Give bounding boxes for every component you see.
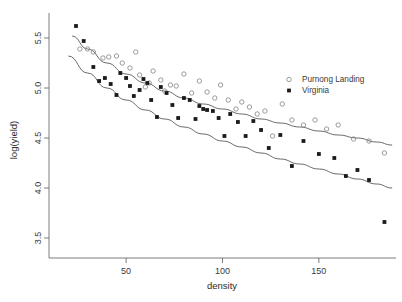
data-point [194, 117, 198, 121]
data-point [278, 133, 282, 137]
data-point [247, 105, 251, 109]
data-point [263, 109, 267, 113]
data-point [218, 83, 222, 87]
data-point [174, 84, 178, 88]
data-point [383, 220, 387, 224]
legend-marker [287, 77, 291, 81]
data-point [120, 61, 124, 65]
y-tick-label: 3.5 [33, 232, 43, 245]
y-tick-label: 4.0 [33, 182, 43, 195]
data-points [74, 24, 387, 224]
data-point [107, 55, 111, 59]
data-point [155, 115, 159, 119]
data-point [324, 127, 328, 131]
data-point [290, 118, 294, 122]
data-point [124, 76, 128, 80]
y-tick-label: 5.0 [33, 82, 43, 95]
data-point [313, 118, 317, 122]
data-point [138, 88, 142, 92]
data-point [259, 128, 263, 132]
data-point [168, 83, 172, 87]
data-point [151, 69, 155, 73]
x-axis-title: density [207, 280, 237, 291]
data-point [182, 72, 186, 76]
data-point [134, 50, 138, 54]
data-point [159, 85, 163, 89]
x-axis-ticks: 50100150 [121, 258, 326, 276]
scatter-chart: 3.54.04.55.05.5 50100150 density log(yie… [0, 0, 402, 302]
y-tick-label: 4.5 [33, 132, 43, 145]
data-point [255, 112, 259, 116]
data-point [228, 112, 232, 116]
fit-curve [72, 36, 392, 145]
data-point [244, 134, 248, 138]
data-point [101, 56, 105, 60]
legend-label: Virginia [302, 86, 330, 95]
data-point [197, 104, 201, 108]
x-tick-label: 150 [311, 266, 326, 276]
data-point [223, 134, 227, 138]
data-point [251, 119, 255, 123]
data-point [270, 134, 274, 138]
data-point [236, 120, 240, 124]
data-point [97, 79, 101, 83]
data-point [142, 77, 146, 81]
data-point [114, 54, 118, 58]
data-point [344, 174, 348, 178]
data-point [205, 90, 209, 94]
data-point [91, 65, 95, 69]
data-point [137, 73, 141, 77]
data-point [267, 146, 271, 150]
data-point [78, 47, 82, 51]
data-point [356, 168, 360, 172]
legend: Purnong LandingVirginia [287, 75, 365, 95]
data-point [103, 76, 107, 80]
data-point [290, 164, 294, 168]
data-point [118, 71, 122, 75]
y-tick-label: 5.5 [33, 32, 43, 45]
data-point [165, 91, 169, 95]
data-point [301, 123, 305, 127]
data-point [336, 123, 340, 127]
fitted-curves [68, 36, 392, 188]
data-point [302, 139, 306, 143]
data-point [382, 151, 386, 155]
data-point [170, 103, 174, 107]
data-point [182, 96, 186, 100]
data-point [226, 98, 230, 102]
data-point [132, 94, 136, 98]
data-point [197, 79, 201, 83]
data-point [367, 178, 371, 182]
data-point [145, 81, 149, 85]
data-point [128, 66, 132, 70]
data-point [213, 96, 217, 100]
data-point [74, 24, 78, 28]
x-tick-label: 50 [121, 266, 131, 276]
data-point [211, 109, 215, 113]
chart-canvas: 3.54.04.55.05.5 50100150 density log(yie… [0, 0, 402, 302]
data-point [109, 82, 113, 86]
x-tick-label: 100 [215, 266, 230, 276]
legend-marker [287, 89, 291, 93]
data-point [234, 107, 238, 111]
data-point [317, 152, 321, 156]
data-point [240, 100, 244, 104]
data-point [149, 98, 153, 102]
data-point [189, 91, 193, 95]
y-axis-title: log(yield) [8, 121, 19, 160]
data-point [159, 78, 163, 82]
legend-label: Purnong Landing [302, 75, 365, 84]
data-point [188, 98, 192, 102]
y-axis-ticks: 3.54.04.55.05.5 [33, 32, 49, 245]
data-point [205, 108, 209, 112]
data-point [82, 39, 86, 43]
data-point [176, 116, 180, 120]
data-point [201, 107, 205, 111]
data-point [332, 156, 336, 160]
data-point [143, 85, 147, 89]
data-point [115, 93, 119, 97]
data-point [128, 84, 132, 88]
data-point [217, 116, 221, 120]
data-point [280, 102, 284, 106]
